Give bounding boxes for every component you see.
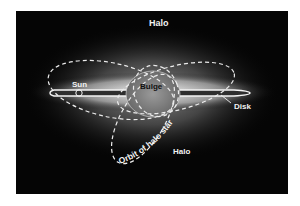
halo-top-label: Halo bbox=[149, 19, 169, 28]
sun-label: Sun bbox=[72, 81, 87, 89]
disk-label: Disk bbox=[234, 103, 251, 111]
galaxy-diagram: Orbit of halo star Halo Sun Bulge Disk H… bbox=[16, 11, 288, 194]
halo-bottom-label: Halo bbox=[173, 148, 190, 156]
bulge-label: Bulge bbox=[140, 83, 162, 91]
